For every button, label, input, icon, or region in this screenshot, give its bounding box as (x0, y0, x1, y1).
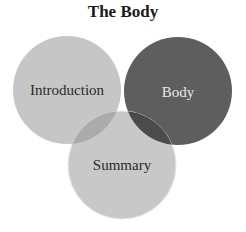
body-label: Body (162, 84, 195, 100)
venn-diagram: Introduction Body Summary (0, 0, 246, 232)
introduction-label: Introduction (30, 82, 105, 98)
summary-label: Summary (93, 157, 152, 173)
